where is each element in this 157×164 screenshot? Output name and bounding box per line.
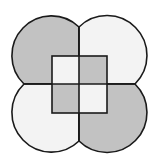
square-cell-top-right (79, 56, 107, 84)
four-lobe-diagram (0, 0, 157, 164)
square-cell-bottom-right (79, 84, 107, 113)
square-cell-top-left (52, 56, 79, 84)
square-cell-bottom-left (52, 84, 79, 113)
